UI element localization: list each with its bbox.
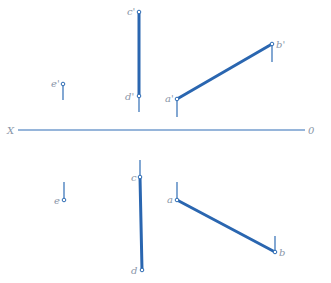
point-e-prime [61,82,65,86]
label-a-prime: a' [165,93,174,104]
point-c [138,175,142,179]
point-b [273,250,277,254]
label-d-prime: d' [125,91,134,102]
segment-c-d [140,177,142,270]
label-c: c [131,172,137,183]
segment-a-prime-b-prime [177,44,272,99]
point-d [140,268,144,272]
point-a [175,198,179,202]
label-c-prime: c' [127,6,135,17]
label-b-prime: b' [276,39,285,50]
label-e: e [54,195,60,206]
point-b-prime [270,42,274,46]
label-b: b [279,247,285,258]
label-d: d [131,265,137,276]
label-e-prime: e' [51,78,60,89]
axis-label-o: 0 [308,125,315,136]
point-a-prime [175,97,179,101]
point-e [62,198,66,202]
segment-a-b [177,200,275,252]
point-d-prime [137,94,141,98]
axis-label-x: X [6,125,15,136]
label-a: a [167,194,173,205]
point-c-prime [137,10,141,14]
orthographic-projection-diagram: X 0 c' d' e' a' b' c d e a b [0,0,331,283]
